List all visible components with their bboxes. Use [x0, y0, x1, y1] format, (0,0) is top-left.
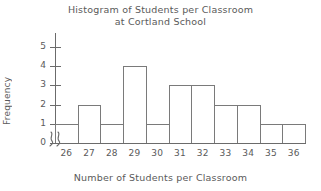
- y-tick-label-3: 3: [30, 79, 46, 89]
- y-tick-4: [50, 66, 61, 67]
- bar-35: [260, 124, 283, 143]
- x-axis-line: [55, 143, 306, 144]
- x-axis-label: Number of Students per Classroom: [0, 172, 321, 183]
- bar-28: [100, 124, 124, 143]
- x-tick-label-29: 29: [123, 148, 147, 158]
- chart-title-line-1: Histogram of Students per Classroom: [68, 4, 253, 15]
- x-tick-label-27: 27: [77, 148, 101, 158]
- y-tick-label-0: 0: [30, 137, 46, 147]
- x-tick-label-35: 35: [259, 148, 283, 158]
- chart-title-line-2: at Cortland School: [0, 16, 321, 28]
- bar-27: [78, 105, 101, 143]
- bar-36: [282, 124, 306, 143]
- y-tick-label-5: 5: [30, 41, 46, 51]
- x-tick-label-32: 32: [191, 148, 215, 158]
- x-tick-label-34: 34: [236, 148, 260, 158]
- y-tick-5: [50, 47, 61, 48]
- x-tick-label-28: 28: [100, 148, 124, 158]
- x-tick-label-31: 31: [168, 148, 192, 158]
- axis-break-icon: [46, 130, 68, 148]
- x-tick-label-30: 30: [145, 148, 169, 158]
- bar-34: [237, 105, 261, 143]
- y-axis-label: Frequency: [2, 58, 16, 144]
- chart-title: Histogram of Students per Classroom at C…: [0, 4, 321, 28]
- bar-32: [191, 85, 215, 143]
- x-tick-label-36: 36: [282, 148, 306, 158]
- bar-33: [214, 105, 238, 143]
- x-tick-label-33: 33: [213, 148, 237, 158]
- y-tick-2: [50, 105, 61, 106]
- x-tick-label-26: 26: [54, 148, 78, 158]
- y-tick-label-1: 1: [30, 118, 46, 128]
- y-tick-label-4: 4: [30, 60, 46, 70]
- bar-29: [123, 66, 147, 143]
- y-tick-label-2: 2: [30, 99, 46, 109]
- histogram-chart: Histogram of Students per Classroom at C…: [0, 0, 321, 191]
- y-tick-3: [50, 85, 61, 86]
- bar-31: [169, 85, 192, 143]
- bar-30: [146, 124, 170, 143]
